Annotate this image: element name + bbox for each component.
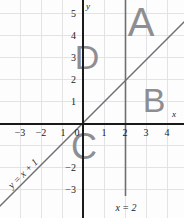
graph-figure: D A B C x y −3 −2 1 0 1 2 3 4 5 4 3 2 1 … <box>0 0 184 218</box>
x-tick-label: 2 <box>123 128 128 138</box>
x-tick-label: −3 <box>15 128 26 138</box>
y-tick-label: 2 <box>64 75 76 85</box>
region-label-a: A <box>128 2 155 42</box>
y-tick-label: −3 <box>60 185 76 195</box>
y-axis-name: y <box>86 2 90 11</box>
y-axis <box>82 0 84 218</box>
x-tick-label: 4 <box>165 128 170 138</box>
x-axis <box>0 123 184 125</box>
x-tick-label: 3 <box>144 128 149 138</box>
x-tick-label: 0 <box>75 128 80 138</box>
y-tick-label: 5 <box>64 9 76 19</box>
x-tick-label: −2 <box>36 128 47 138</box>
y-tick-label: 4 <box>64 31 76 41</box>
region-label-d: D <box>75 40 100 74</box>
x-axis-name: x <box>172 110 176 119</box>
region-label-b: B <box>143 83 166 117</box>
y-tick-label: −2 <box>60 163 76 173</box>
y-tick-label: 1 <box>64 97 76 107</box>
x-tick-label: 1 <box>102 128 107 138</box>
x-tick-label: 1 <box>61 128 66 138</box>
vertical-line-equation-label: x = 2 <box>115 203 136 213</box>
y-tick-label: 3 <box>64 53 76 63</box>
